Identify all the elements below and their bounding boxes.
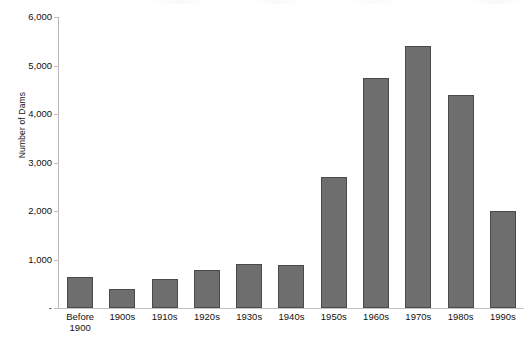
x-tick-label: Before 1900: [59, 312, 101, 333]
x-axis-tick-labels: Before 19001900s1910s1920s1930s1940s1950…: [59, 312, 524, 342]
bar[interactable]: [67, 277, 93, 308]
y-axis-tick-mark: [54, 211, 59, 212]
y-axis-tick-mark: [54, 66, 59, 67]
y-tick-label: 5,000: [6, 61, 52, 71]
x-tick-label: 1970s: [397, 312, 439, 323]
bar-slot: [313, 17, 355, 308]
bar-slot: [439, 17, 481, 308]
y-axis-tick-mark: [54, 114, 59, 115]
x-tick-label: 1910s: [144, 312, 186, 323]
y-tick-label: 4,000: [6, 109, 52, 119]
bar-slot: [228, 17, 270, 308]
y-axis-tick-mark: [54, 260, 59, 261]
x-tick-label: 1900s: [101, 312, 143, 323]
x-tick-label: 1960s: [355, 312, 397, 323]
y-axis-tick-mark: [54, 308, 59, 309]
bar[interactable]: [448, 95, 474, 308]
y-tick-label: 3,000: [6, 158, 52, 168]
x-axis-line: [58, 308, 524, 309]
x-tick-label: 1980s: [439, 312, 481, 323]
plot-area: [59, 17, 524, 308]
x-tick-label: 1930s: [228, 312, 270, 323]
bar-slot: [482, 17, 524, 308]
bar-slot: [397, 17, 439, 308]
bar[interactable]: [321, 177, 347, 308]
y-tick-label: 6,000: [6, 12, 52, 22]
y-tick-label: 2,000: [6, 206, 52, 216]
x-tick-label: 1990s: [482, 312, 524, 323]
y-tick-label: 1,000: [6, 255, 52, 265]
bar[interactable]: [278, 265, 304, 308]
x-tick-label: 1920s: [186, 312, 228, 323]
y-tick-label: -: [6, 303, 52, 313]
bar[interactable]: [236, 264, 262, 308]
bar[interactable]: [405, 46, 431, 308]
bar[interactable]: [109, 289, 135, 308]
bar[interactable]: [194, 270, 220, 308]
bar-slot: [101, 17, 143, 308]
bar-chart: Number of Dams -1,0002,0003,0004,0005,00…: [0, 0, 530, 342]
bar-slot: [186, 17, 228, 308]
scan-artifact: [150, 0, 520, 4]
bar-slot: [270, 17, 312, 308]
bar-slot: [144, 17, 186, 308]
bar[interactable]: [490, 211, 516, 308]
bar-slot: [59, 17, 101, 308]
x-tick-label: 1950s: [313, 312, 355, 323]
bar[interactable]: [363, 78, 389, 308]
bar[interactable]: [152, 279, 178, 308]
x-tick-label: 1940s: [270, 312, 312, 323]
bar-slot: [355, 17, 397, 308]
y-axis-tick-mark: [54, 17, 59, 18]
y-axis-tick-mark: [54, 163, 59, 164]
y-axis-tick-labels: -1,0002,0003,0004,0005,0006,000: [0, 0, 52, 342]
